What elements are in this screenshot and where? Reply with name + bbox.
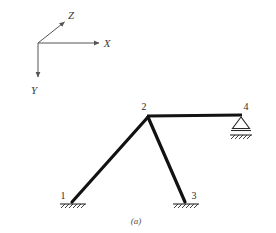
node-label-3: 3 [192,190,197,201]
hatch-tick [81,204,85,208]
figure-caption: (a) [131,216,142,226]
node-label-1: 1 [61,190,66,201]
node-label-4: 4 [244,101,249,112]
member-1-2 [72,117,148,202]
y-axis-label: Y [31,84,39,96]
hatch-tick [77,204,81,208]
support-node-1 [60,204,86,208]
z-axis-label: Z [68,9,75,21]
support-triangle-4 [233,117,250,129]
hatch-tick [243,135,247,139]
hatch-tick [182,204,186,208]
hatch-tick [247,135,251,139]
hatch-tick [61,204,65,208]
frame-members [72,115,242,202]
figure-canvas: X Y Z [0,0,276,233]
x-axis-label: X [103,37,112,49]
node-label-2: 2 [142,101,147,112]
hatch-tick [186,204,190,208]
truss-figure: X Y Z [0,0,276,233]
hatch-tick [190,204,194,208]
member-2-3 [148,117,185,202]
z-axis-line [38,22,65,43]
hatch-tick [239,135,243,139]
member-2-4 [147,115,242,116]
hatch-tick [178,204,182,208]
hatch-tick [65,204,69,208]
hatch-tick [174,204,178,208]
support-node-4 [230,117,252,139]
hatch-tick [69,204,73,208]
coordinate-axes: X Y Z [31,9,112,96]
hatch-tick [194,204,198,208]
hatch-tick [231,135,235,139]
support-node-3 [173,204,199,208]
hatch-tick [235,135,239,139]
hatch-tick [73,204,77,208]
